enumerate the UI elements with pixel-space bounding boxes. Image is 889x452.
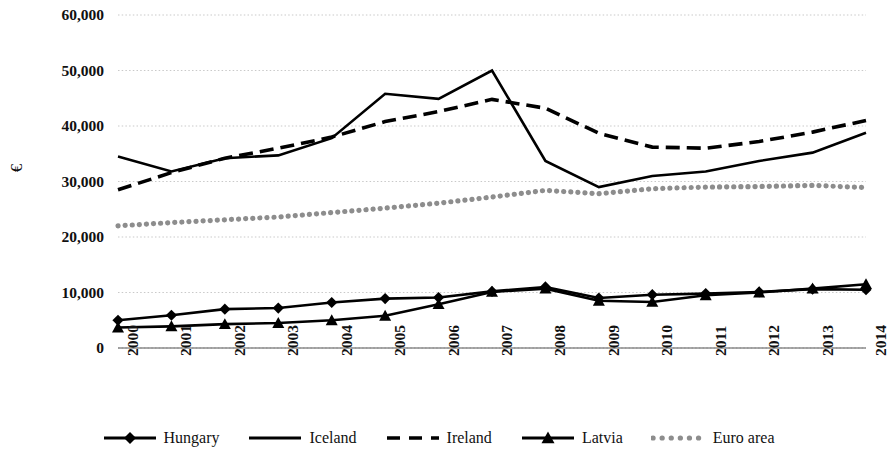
data-point-marker bbox=[166, 310, 177, 321]
legend-label: Iceland bbox=[309, 429, 356, 447]
legend-item-iceland[interactable]: Iceland bbox=[247, 429, 356, 447]
legend-item-euro-area[interactable]: Euro area bbox=[651, 429, 775, 447]
data-point-marker bbox=[380, 293, 391, 304]
chart-legend: HungaryIcelandIrelandLatviaEuro area bbox=[0, 424, 876, 452]
legend-swatch-solid bbox=[247, 430, 303, 446]
series-euro-area bbox=[118, 185, 866, 226]
series-iceland bbox=[118, 71, 866, 188]
legend-diamond-marker bbox=[124, 432, 136, 444]
data-point-marker bbox=[219, 304, 230, 315]
series-line bbox=[118, 99, 866, 189]
legend-swatch-solid bbox=[520, 430, 576, 446]
legend-item-hungary[interactable]: Hungary bbox=[102, 429, 220, 447]
data-point-marker bbox=[273, 302, 284, 313]
legend-swatch-dotted bbox=[651, 430, 707, 446]
data-point-marker bbox=[326, 297, 337, 308]
series-ireland bbox=[118, 99, 866, 189]
legend-label: Ireland bbox=[447, 429, 492, 447]
legend-swatch-dashed bbox=[385, 430, 441, 446]
legend-item-latvia[interactable]: Latvia bbox=[520, 429, 623, 447]
legend-label: Hungary bbox=[164, 429, 220, 447]
legend-label: Latvia bbox=[582, 429, 623, 447]
series-line bbox=[118, 71, 866, 188]
legend-item-ireland[interactable]: Ireland bbox=[385, 429, 492, 447]
legend-label: Euro area bbox=[713, 429, 775, 447]
legend-swatch-solid bbox=[102, 430, 158, 446]
series-line bbox=[118, 185, 866, 226]
